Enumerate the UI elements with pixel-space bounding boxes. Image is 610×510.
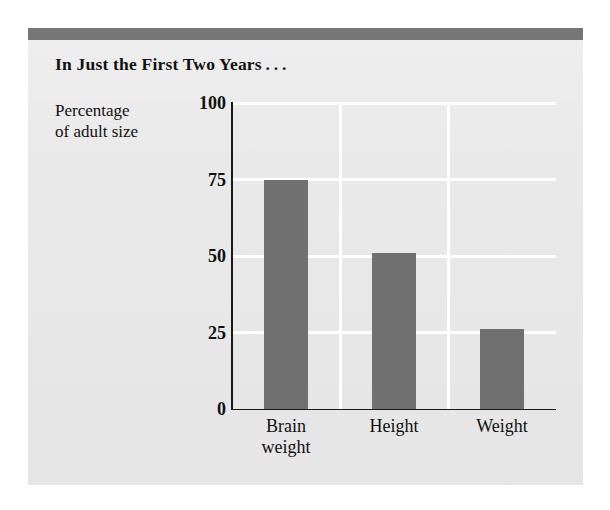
y-tick-label-100: 100 — [180, 93, 226, 114]
x-tick-label-line: Height — [370, 416, 419, 437]
gridline-horizontal-100 — [232, 102, 556, 105]
plot-area — [232, 103, 556, 409]
header-band — [28, 28, 583, 40]
y-axis-line — [231, 102, 233, 410]
gridline-vertical-2 — [447, 103, 450, 409]
gridline-vertical-1 — [339, 103, 342, 409]
y-axis-caption: Percentage of adult size — [55, 100, 138, 143]
x-tick-label-height: Height — [370, 416, 419, 437]
figure-title: In Just the First Two Years . . . — [55, 54, 287, 75]
x-tick-label-line: Weight — [476, 416, 528, 437]
y-tick-label-25: 25 — [180, 322, 226, 343]
y-tick-label-75: 75 — [180, 169, 226, 190]
bar-brain-weight — [264, 180, 308, 410]
x-tick-label-weight: Weight — [476, 416, 528, 437]
y-axis-caption-line-1: Percentage — [55, 100, 138, 121]
x-tick-label-line: Brain — [262, 416, 311, 437]
bar-weight — [480, 329, 524, 409]
y-tick-label-50: 50 — [180, 246, 226, 267]
x-axis-line — [231, 409, 556, 411]
y-axis-caption-line-2: of adult size — [55, 121, 138, 142]
bar-height — [372, 253, 416, 409]
x-tick-label-brain-weight: Brainweight — [262, 416, 311, 458]
figure-canvas: In Just the First Two Years . . . Percen… — [0, 0, 610, 510]
x-tick-label-line: weight — [262, 437, 311, 458]
y-tick-label-0: 0 — [180, 399, 226, 420]
